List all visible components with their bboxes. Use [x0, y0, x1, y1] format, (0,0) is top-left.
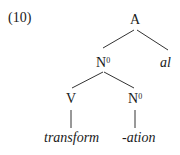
- node-superscript: 0: [106, 56, 110, 65]
- edge-n0-v: [72, 72, 103, 88]
- node-al: al: [160, 56, 171, 70]
- edge-n0-n0: [104, 72, 134, 88]
- node-a: A: [130, 13, 140, 27]
- leaf-ation: -ation: [122, 131, 155, 145]
- edge-a-al: [137, 30, 168, 50]
- node-label: N: [128, 91, 138, 106]
- node-superscript: 0: [138, 92, 142, 101]
- example-number: (10): [8, 11, 31, 25]
- node-n0-upper: N0: [96, 56, 110, 70]
- edge-a-n0: [103, 30, 134, 48]
- node-label: N: [96, 55, 106, 70]
- leaf-transform: transform: [44, 131, 99, 145]
- node-v: V: [66, 92, 76, 106]
- node-n0-lower: N0: [128, 92, 142, 106]
